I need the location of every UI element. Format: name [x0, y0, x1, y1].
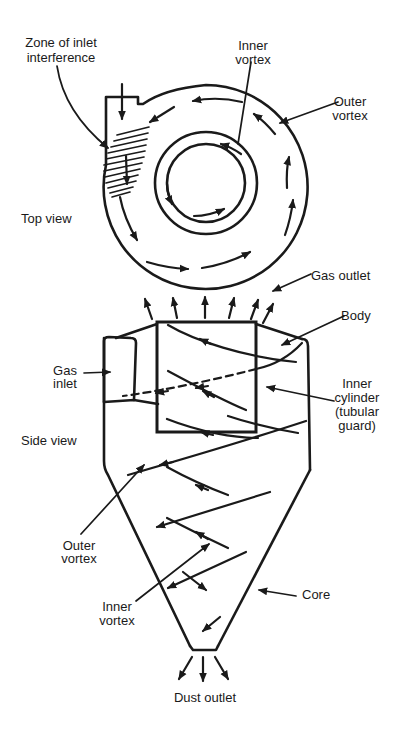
gas-outlet-label: Gas outlet	[311, 268, 371, 283]
body-vortex-curves	[123, 325, 306, 475]
scroll-outer-wall	[104, 85, 308, 289]
inner-cylinder-label: Inner	[342, 376, 372, 391]
inner-cylinder-label: cylinder	[335, 390, 380, 405]
body-label: Body	[341, 308, 371, 323]
cyclone-separator-figure: Zone of inlet interference Inner vortex …	[0, 0, 396, 738]
outer-vortex-arrows	[120, 99, 293, 269]
inlet-flow-arrows	[122, 84, 174, 184]
cyclone-separator-diagram: Zone of inlet interference Inner vortex …	[0, 0, 396, 738]
inner-ring-inner-circle	[167, 144, 245, 222]
outer-vortex-leader-line	[280, 102, 338, 123]
side-view-caption: Side view	[21, 433, 77, 448]
gas-outlet-leader-line	[273, 274, 311, 291]
zone-of-inlet-interference-label: interference	[27, 50, 96, 65]
gas-inlet-label: inlet	[53, 376, 77, 391]
outer-vortex-label: vortex	[332, 108, 368, 123]
core-leader-line	[259, 590, 296, 596]
inner-vortex-side-label: vortex	[99, 613, 135, 628]
inner-vortex-label: Inner	[238, 38, 268, 53]
inner-vortex-label: vortex	[235, 52, 271, 67]
outer-vortex-side-leader-line	[81, 465, 144, 534]
gas-outlet-arrows	[145, 297, 273, 323]
zone-leader-line	[57, 66, 108, 148]
top-view-labels: Zone of inlet interference Inner vortex …	[21, 35, 368, 226]
outer-vortex-label: Outer	[334, 94, 367, 109]
outer-vortex-side-label: vortex	[61, 551, 97, 566]
gas-inlet-leader-line	[84, 372, 110, 373]
zone-of-inlet-interference-label: Zone of inlet	[25, 35, 97, 50]
core-label: Core	[302, 587, 330, 602]
inner-cylinder-leader-line	[267, 387, 334, 401]
body-leader-line	[282, 316, 344, 345]
inner-cylinder-rect	[157, 322, 256, 432]
top-view-drawing: Zone of inlet interference Inner vortex …	[21, 35, 368, 289]
inner-vortex-side-leader-line	[136, 544, 209, 601]
inner-vortex-side-label: Inner	[102, 599, 132, 614]
inner-cylinder-label: guard)	[338, 418, 376, 433]
inner-cylinder-label: (tubular	[335, 404, 380, 419]
dust-outlet-label: Dust outlet	[174, 690, 237, 705]
inner-vortex-leader-line	[238, 62, 251, 144]
dust-outlet-arrows	[179, 657, 228, 681]
inner-ring-outer-circle	[155, 132, 257, 234]
top-view-caption: Top view	[21, 211, 72, 226]
cone-vortex-curves	[157, 467, 270, 631]
side-view-drawing: Gas outlet Body Gas inlet Inner cylinder…	[21, 268, 380, 705]
